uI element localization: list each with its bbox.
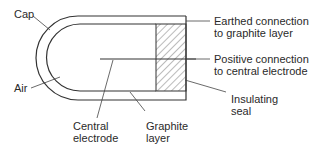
leader-graphite bbox=[130, 92, 145, 111]
label-central-electrode-line2: electrode bbox=[73, 132, 118, 144]
insulating-seal bbox=[156, 24, 186, 91]
label-cap: Cap bbox=[14, 8, 34, 20]
label-earthed-line1: Earthed connection bbox=[214, 15, 309, 27]
label-earthed-line2: to graphite layer bbox=[214, 27, 293, 39]
leader-cap bbox=[33, 16, 50, 30]
label-positive-line2: to central electrode bbox=[214, 65, 308, 77]
leader-air bbox=[31, 77, 60, 88]
leader-seal bbox=[185, 80, 226, 92]
label-positive-line1: Positive connection bbox=[214, 53, 309, 65]
graphite-inner-outline bbox=[47, 24, 156, 91]
leader-central bbox=[97, 60, 113, 118]
label-central-electrode-line1: Central bbox=[73, 120, 108, 132]
label-graphite-layer-line1: Graphite bbox=[146, 120, 188, 132]
label-graphite-layer-line2: layer bbox=[146, 132, 170, 144]
label-seal-line2: seal bbox=[231, 105, 251, 117]
label-seal-line1: Insulating bbox=[231, 93, 278, 105]
label-air: Air bbox=[14, 82, 27, 94]
